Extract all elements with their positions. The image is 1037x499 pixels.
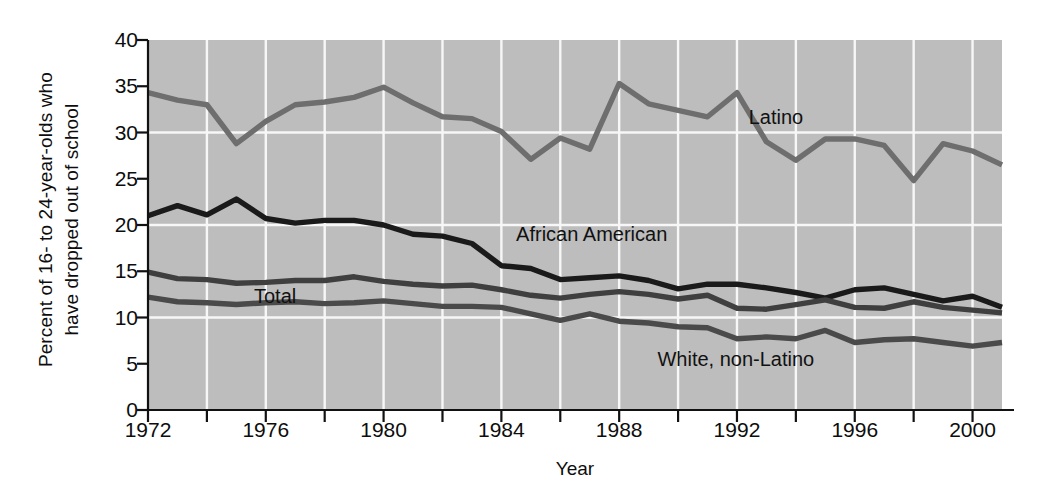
series-label-white-non-latino: White, non-Latino [657,348,814,371]
series-label-african-american: African American [516,223,667,246]
series-label-latino: Latino [749,106,804,129]
x-axis-tick-label: 1996 [831,418,878,442]
x-axis-label: Year [148,458,1002,480]
x-axis-tick-label: 1988 [596,418,643,442]
x-axis-tick-label: 2000 [949,418,996,442]
x-axis-tick-label: 1972 [125,418,172,442]
dropout-rate-line-chart: Percent of 16- to 24-year-olds who have … [0,0,1037,499]
x-axis-tick-label: 1976 [242,418,289,442]
x-axis-tick-label: 1980 [360,418,407,442]
x-axis-tick-label: 1992 [714,418,761,442]
x-axis-tick-label: 1984 [478,418,525,442]
series-label-total: Total [254,285,296,308]
